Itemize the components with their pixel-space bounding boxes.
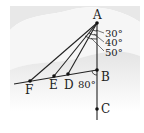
label-a: A bbox=[92, 8, 102, 22]
geometry-diagram: A B C D E F 30° 40° 50° 80° bbox=[0, 0, 144, 133]
label-d: D bbox=[64, 78, 74, 92]
angle-label-50: 50° bbox=[105, 47, 123, 58]
angle-label-80: 80° bbox=[78, 79, 96, 90]
label-f: F bbox=[25, 83, 33, 97]
label-c: C bbox=[101, 102, 110, 116]
label-b: B bbox=[101, 70, 110, 84]
point-c bbox=[95, 107, 99, 111]
point-d bbox=[66, 72, 70, 76]
label-e: E bbox=[49, 78, 58, 92]
point-b bbox=[95, 68, 99, 72]
